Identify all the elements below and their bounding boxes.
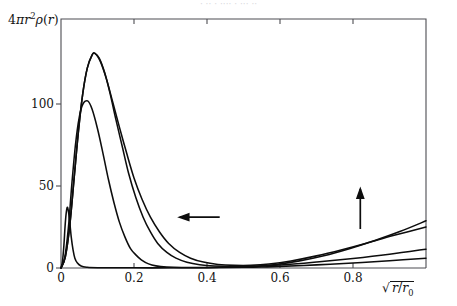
density-curves-group	[61, 53, 426, 268]
curve-curve-2-mid	[61, 101, 426, 268]
plot-frame-box	[61, 19, 426, 268]
figure-root: · ·· · ···· · ··· ·· 4πr2ρ(r) √r/r0 0 0.…	[0, 0, 457, 306]
curve-curve-3-tall	[61, 53, 426, 268]
curve-curve-4-broadtail	[61, 53, 426, 268]
up-arrow-head	[357, 189, 363, 198]
annotation-arrows-group	[180, 189, 364, 229]
left-arrow-head	[180, 214, 189, 220]
plot-canvas	[0, 0, 457, 306]
curve-curve-1-narrow	[61, 207, 426, 268]
